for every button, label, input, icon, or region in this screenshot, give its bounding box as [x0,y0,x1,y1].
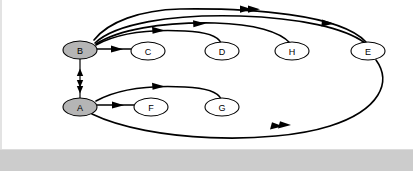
edge-b-to-h-arrowhead [193,20,206,27]
node-b[interactable]: B [63,41,97,59]
node-f-ellipse [134,98,168,116]
node-e[interactable]: E [351,42,385,60]
node-d-ellipse [205,42,239,60]
node-h-ellipse [275,42,309,60]
edge-e-to-a-arrowhead-inner [278,121,291,128]
edge-a-to-g-arrowhead [152,83,165,90]
edge-layer [77,6,383,138]
edge-b-to-h-path [96,23,290,44]
node-a[interactable]: A [63,98,97,116]
node-f[interactable]: F [134,98,168,116]
edge-e-to-a-path [92,60,383,138]
diagram-canvas: B A C D H E [0,0,413,171]
edge-b-to-d-path [96,31,221,45]
node-c[interactable]: C [131,42,165,60]
node-h[interactable]: H [275,42,309,60]
node-c-ellipse [131,42,165,60]
node-d[interactable]: D [205,42,239,60]
edge-b-to-c-arrowhead [111,46,123,53]
node-g-ellipse [205,98,239,116]
edge-a-to-b-arrowhead [77,69,83,77]
edge-a-b-pair[interactable] [77,59,83,98]
bottom-status-bar [0,149,413,171]
edge-a-to-g[interactable] [96,83,221,101]
edge-e-to-a[interactable] [92,60,383,138]
node-g[interactable]: G [205,98,239,116]
node-b-ellipse [63,41,97,59]
edge-b-to-d-arrowhead [152,27,165,34]
edge-a-to-f-arrowhead [112,102,124,109]
node-e-ellipse [351,42,385,60]
edge-b-to-c[interactable] [97,46,131,53]
edge-a-to-f[interactable] [97,102,134,109]
node-a-ellipse [63,98,97,116]
graph-svg: B A C D H E [0,0,413,150]
edge-b-to-a-arrowhead-inner [77,86,83,94]
